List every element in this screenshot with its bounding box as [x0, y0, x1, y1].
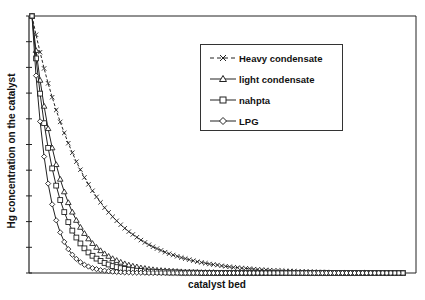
legend-item-lpg: LPG [209, 114, 259, 128]
x-marker [110, 215, 114, 219]
x-marker [82, 175, 86, 179]
x-marker [143, 240, 147, 244]
diamond-marker [54, 218, 59, 223]
square-marker [46, 145, 51, 150]
x-marker [74, 160, 78, 164]
x-marker [62, 131, 66, 135]
y-axis-label: Hg concentration on the catalyst [6, 73, 17, 228]
x-marker [123, 226, 127, 230]
square-marker [74, 235, 79, 240]
x-marker [78, 167, 82, 171]
square-marker [78, 241, 83, 246]
diamond-marker [62, 239, 67, 244]
x-marker [86, 182, 90, 186]
legend-label: Heavy condensate [239, 53, 322, 64]
x-marker [66, 141, 70, 145]
diamond-marker [41, 154, 46, 159]
x-marker [159, 248, 163, 252]
diamond-marker [50, 202, 55, 207]
legend-item-light-condensate: light condensate [209, 72, 314, 86]
triangle-marker [61, 189, 67, 194]
triangle-marker [65, 200, 71, 205]
x-marker [94, 195, 98, 199]
square-marker [62, 210, 67, 215]
square-marker [50, 166, 55, 171]
square-marker-line-icon [209, 93, 237, 107]
diamond-marker [46, 181, 51, 186]
x-marker [163, 250, 167, 254]
legend: Heavy condensate light condensate nahpta… [200, 44, 343, 131]
legend-item-nahpta: nahpta [209, 93, 270, 107]
triangle-marker [45, 126, 51, 131]
x-marker [151, 245, 155, 249]
legend-item-heavy-condensate: Heavy condensate [209, 51, 322, 65]
x-marker [119, 222, 123, 226]
x-marker [131, 232, 135, 236]
x-marker [106, 210, 110, 214]
x-marker [147, 243, 151, 247]
triangle-marker [70, 209, 76, 214]
x-marker [70, 151, 74, 155]
legend-label: nahpta [239, 95, 270, 106]
square-marker [66, 220, 71, 225]
x-marker [114, 219, 118, 223]
x-marker [167, 252, 171, 256]
x-marker [139, 238, 143, 242]
x-marker [127, 229, 131, 233]
legend-label: LPG [239, 116, 259, 127]
x-marker [155, 246, 159, 250]
triangle-marker [74, 218, 80, 223]
triangle-marker-line-icon [209, 72, 237, 86]
x-marker [102, 206, 106, 210]
square-marker [38, 91, 43, 96]
triangle-marker [57, 176, 63, 181]
triangle-marker [78, 224, 84, 229]
legend-label: light condensate [239, 74, 314, 85]
square-marker [54, 183, 59, 188]
x-marker [98, 200, 102, 204]
square-marker [58, 198, 63, 203]
x-marker [135, 235, 139, 239]
x-axis-label: catalyst bed [188, 279, 246, 290]
diamond-marker-line-icon [209, 114, 237, 128]
square-marker [70, 228, 75, 233]
x-marker-dashed-line-icon [209, 51, 237, 65]
x-marker [90, 189, 94, 193]
x-marker [58, 120, 62, 124]
diamond-marker [58, 230, 63, 235]
